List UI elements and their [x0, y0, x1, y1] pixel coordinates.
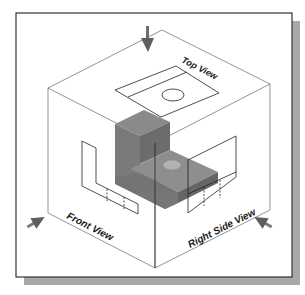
hole	[163, 160, 181, 170]
glass-box-diagram: Top View Front View Right Side View	[0, 0, 305, 295]
